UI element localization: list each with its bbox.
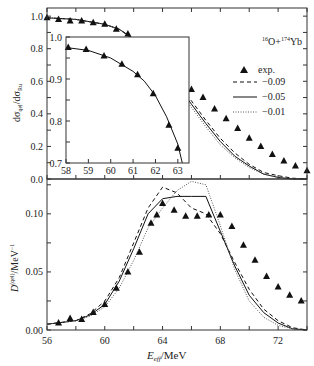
x-tick-label: 60 — [100, 335, 110, 346]
axes-frame — [47, 179, 307, 330]
exp-marker — [113, 25, 120, 32]
x-tick-label: 64 — [158, 335, 168, 346]
reaction-label: 16O+174Yb — [262, 36, 302, 47]
exp-marker — [263, 273, 270, 280]
legend-dashed-label: −0.09 — [262, 76, 285, 87]
exp-marker — [223, 115, 230, 122]
x-tick-label: 62 — [150, 165, 160, 176]
exp-marker — [269, 151, 276, 158]
exp-marker — [67, 314, 74, 321]
y-tick-label: 1.0 — [31, 11, 44, 22]
exp-marker — [159, 199, 166, 206]
exp-marker — [292, 162, 299, 169]
series-line — [47, 187, 307, 330]
exp-marker — [286, 291, 293, 298]
y-tick-label: 0.8 — [31, 43, 44, 54]
y-tick-label: 0.8 — [50, 116, 63, 127]
legend-exp-label: exp. — [258, 64, 275, 75]
x-tick-label: 56 — [42, 335, 52, 346]
inset-panel: 0.70.80.91.0585960616263 — [50, 32, 190, 177]
x-tick-label: 58 — [61, 165, 71, 176]
exp-marker — [124, 268, 131, 275]
exp-marker — [148, 219, 155, 226]
y-tick-label: 1.0 — [50, 32, 63, 43]
series-line — [47, 181, 307, 330]
x-axis-label: Eeff/MeV — [146, 349, 186, 363]
figure: 0.00.20.40.60.81.0 0.70.80.91.0585960616… — [0, 0, 314, 366]
exp-marker — [275, 283, 282, 290]
exp-marker — [280, 157, 287, 164]
exp-marker — [182, 212, 189, 219]
exp-marker — [136, 248, 143, 255]
legend-solid-label: −0.05 — [262, 91, 285, 102]
exp-marker — [200, 94, 207, 101]
exp-marker — [257, 142, 264, 149]
series-line — [47, 196, 307, 330]
lower-y-axis-label: D(qel)/MeV−1 — [9, 244, 20, 293]
y-tick-label: 0.9 — [50, 74, 63, 85]
x-tick-label: 63 — [173, 165, 183, 176]
exp-marker — [228, 223, 235, 230]
exp-marker — [194, 212, 201, 219]
y-tick-label: 0.10 — [26, 208, 44, 219]
exp-marker — [234, 125, 241, 132]
lower-panel: 0.000.050.105660646872 — [26, 179, 308, 346]
x-tick-label: 61 — [128, 165, 138, 176]
exp-marker — [211, 105, 218, 112]
y-tick-label: 0.00 — [26, 325, 44, 336]
exp-marker — [217, 211, 224, 218]
y-tick-label: 0.2 — [31, 141, 44, 152]
exp-marker — [252, 256, 259, 263]
exp-marker — [240, 241, 247, 248]
y-tick-label: 0.6 — [31, 76, 44, 87]
x-tick-label: 60 — [106, 165, 116, 176]
exp-marker — [298, 297, 305, 304]
legend: exp. −0.09 −0.05 −0.01 — [233, 64, 285, 117]
x-tick-label: 59 — [83, 165, 93, 176]
y-tick-label: 0.0 — [31, 174, 44, 185]
exp-marker — [246, 134, 253, 141]
legend-exp-marker — [240, 66, 248, 73]
y-tick-label: 0.05 — [26, 266, 44, 277]
exp-marker — [67, 17, 74, 24]
x-tick-label: 68 — [215, 335, 225, 346]
exp-marker — [153, 211, 160, 218]
upper-y-axis-label: dσqel/dσRu — [11, 84, 23, 122]
x-tick-label: 72 — [273, 335, 283, 346]
y-tick-label: 0.4 — [31, 108, 44, 119]
exp-marker — [113, 284, 120, 291]
legend-dotted-label: −0.01 — [262, 106, 285, 117]
exp-marker — [171, 206, 178, 213]
